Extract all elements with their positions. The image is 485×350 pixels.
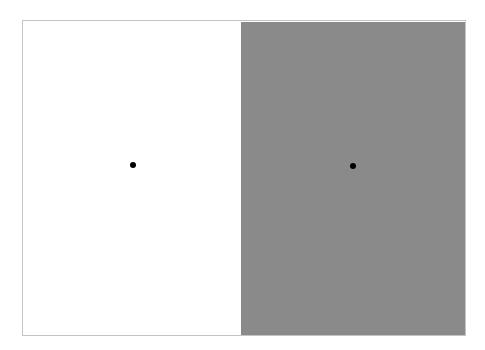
fixation-dot-right — [350, 163, 356, 169]
fixation-dot-left — [130, 162, 136, 168]
gray-panel — [241, 22, 465, 335]
white-panel — [23, 21, 241, 335]
stimulus-frame — [22, 20, 466, 336]
